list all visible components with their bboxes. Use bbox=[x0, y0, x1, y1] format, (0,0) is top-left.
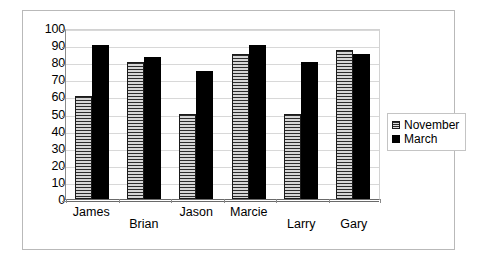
x-axis-label-brian: Brian bbox=[129, 218, 158, 231]
y-axis-tick-label: 50 bbox=[31, 108, 65, 121]
y-axis-tick-label: 100 bbox=[31, 23, 65, 36]
bar-group bbox=[170, 30, 222, 199]
y-axis-tick-label: 60 bbox=[31, 91, 65, 104]
y-axis-tick-label: 30 bbox=[31, 142, 65, 155]
bar-group bbox=[118, 30, 170, 199]
plot-area bbox=[65, 29, 380, 200]
bar-march-james bbox=[92, 45, 109, 199]
bar-group bbox=[66, 30, 118, 199]
x-axis-label-marcie: Marcie bbox=[230, 206, 268, 219]
bar-groups bbox=[66, 30, 379, 199]
y-axis-tick-label: 90 bbox=[31, 40, 65, 53]
legend-label: March bbox=[404, 133, 437, 145]
y-axis-tick-label: 70 bbox=[31, 74, 65, 87]
bar-march-marcie bbox=[249, 45, 266, 199]
bar-november-larry bbox=[284, 114, 301, 200]
y-axis-tick-label: 0 bbox=[31, 194, 65, 207]
x-axis-label-gary: Gary bbox=[340, 218, 367, 231]
legend-swatch-november-icon bbox=[392, 121, 400, 129]
chart-figure: 0102030405060708090100 JamesBrianJasonMa… bbox=[22, 10, 455, 250]
x-axis-label-james: James bbox=[73, 206, 110, 219]
y-axis-tick-label: 40 bbox=[31, 125, 65, 138]
bar-march-brian bbox=[144, 57, 161, 199]
legend-item-march[interactable]: March bbox=[392, 132, 459, 146]
bar-march-jason bbox=[196, 71, 213, 199]
chart-legend: NovemberMarch bbox=[387, 113, 466, 151]
legend-label: November bbox=[404, 119, 459, 131]
bar-group bbox=[223, 30, 275, 199]
y-axis-tick-label: 10 bbox=[31, 177, 65, 190]
bar-march-larry bbox=[301, 62, 318, 199]
bar-march-gary bbox=[353, 54, 370, 199]
x-axis-category-labels: JamesBrianJasonMarcieLarryGary bbox=[65, 201, 380, 235]
legend-item-november[interactable]: November bbox=[392, 118, 459, 132]
bar-november-gary bbox=[336, 50, 353, 199]
bar-november-marcie bbox=[232, 54, 249, 199]
legend-swatch-march-icon bbox=[392, 135, 400, 143]
bar-november-james bbox=[75, 96, 92, 199]
bar-group bbox=[275, 30, 327, 199]
x-axis-label-jason: Jason bbox=[180, 206, 213, 219]
bar-group bbox=[327, 30, 379, 199]
y-axis-tick-label: 80 bbox=[31, 57, 65, 70]
x-axis-tick-mark bbox=[380, 199, 381, 203]
y-axis-tick-labels: 0102030405060708090100 bbox=[31, 29, 65, 200]
bar-november-brian bbox=[127, 62, 144, 199]
bar-november-jason bbox=[179, 114, 196, 200]
x-axis-label-larry: Larry bbox=[287, 218, 315, 231]
y-axis-tick-label: 20 bbox=[31, 160, 65, 173]
